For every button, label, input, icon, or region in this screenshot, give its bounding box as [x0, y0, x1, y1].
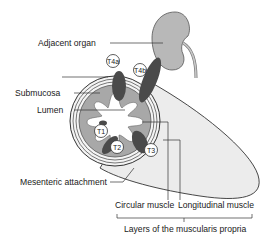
- svg-text:T2: T2: [113, 144, 121, 151]
- stage-badge-t4a: T4a: [107, 55, 120, 68]
- label-lumen: Lumen: [37, 105, 63, 115]
- label-adjacent-organ: Adjacent organ: [38, 38, 96, 48]
- label-longitudinal-muscle: Longitudinal muscle: [178, 200, 254, 210]
- label-circular-muscle: Circular muscle: [115, 200, 174, 210]
- svg-text:T1: T1: [97, 128, 105, 135]
- label-submucosa: Submucosa: [15, 88, 61, 98]
- stage-badge-t3: T3: [145, 144, 158, 157]
- label-mesenteric-attachment: Mesenteric attachment: [20, 177, 108, 187]
- svg-text:T4b: T4b: [134, 67, 146, 74]
- colorectal-tumor-staging-diagram: T4a T4b T1 T2 T3 Adjacent organ Submucos…: [0, 0, 278, 239]
- stage-badge-t1: T1: [95, 125, 108, 138]
- svg-text:T3: T3: [147, 147, 155, 154]
- tumor-t4a: [112, 71, 126, 101]
- stage-badge-t2: T2: [111, 141, 124, 154]
- stage-badge-t4b: T4b: [134, 64, 147, 77]
- label-muscularis-propria: Layers of the muscularis propria: [124, 224, 246, 234]
- svg-text:T4a: T4a: [107, 58, 119, 65]
